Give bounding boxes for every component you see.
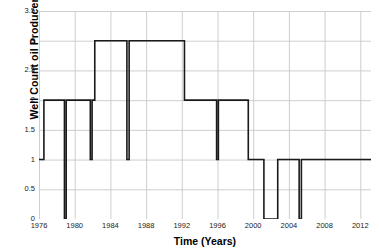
chart-root: 00.511.522.533.5 Well Count oil Producer…	[0, 0, 379, 252]
x-axis-tick-label: 1980	[55, 222, 95, 230]
x-axis-tick-label: 1996	[197, 222, 237, 230]
x-axis-tick-label: 2000	[233, 222, 273, 230]
data-series-line	[39, 41, 371, 219]
x-axis-tick-label: 2008	[305, 222, 345, 230]
x-axis-tick-label: 1976	[19, 222, 59, 230]
y-axis-tick-label: 1	[9, 156, 35, 164]
y-axis-tick-label: 0.5	[9, 185, 35, 193]
x-axis-tick-label: 2004	[269, 222, 309, 230]
plot-area	[39, 11, 371, 219]
x-axis-tick-label: 2012	[340, 222, 379, 230]
x-axis-tick-label: 1992	[162, 222, 202, 230]
x-axis-tick-label: 1984	[90, 222, 130, 230]
x-axis-title: Time (Years)	[39, 235, 371, 247]
x-axis-tick-label: 1988	[126, 222, 166, 230]
chart-svg	[39, 11, 371, 219]
